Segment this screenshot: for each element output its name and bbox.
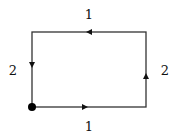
label-left: 2 [9, 63, 17, 78]
loop-rectangle [32, 32, 146, 107]
arrow-left-icon [86, 29, 92, 35]
arrow-right-icon [82, 104, 88, 110]
label-bottom: 1 [85, 119, 93, 134]
label-right: 2 [161, 63, 169, 78]
arrow-down-icon [29, 62, 35, 68]
arrow-up-icon [143, 73, 149, 79]
loop-diagram: 1 2 1 2 [0, 0, 178, 138]
start-point [28, 103, 36, 111]
label-top: 1 [85, 7, 93, 22]
